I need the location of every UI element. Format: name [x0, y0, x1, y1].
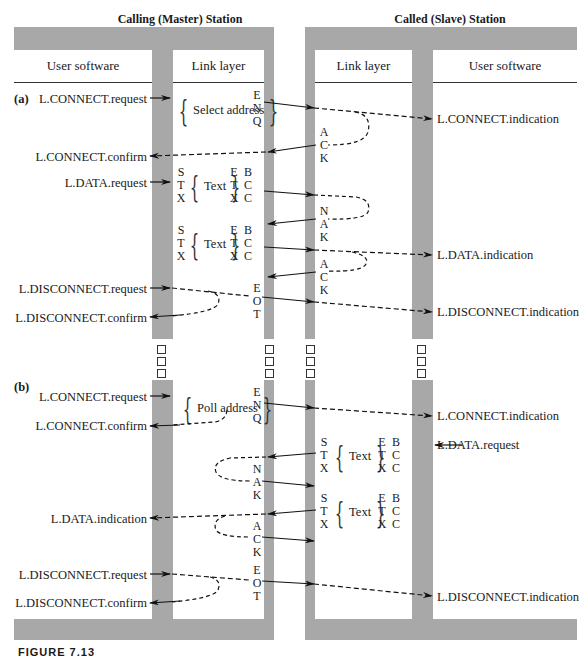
figure-caption: FIGURE 7.13 — [18, 646, 95, 656]
message-arrows — [0, 0, 583, 656]
